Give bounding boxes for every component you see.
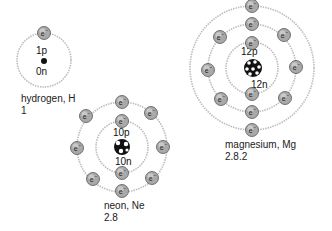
electron-icon [116, 96, 129, 109]
hydrogen-config: 1 [21, 105, 75, 117]
electron-icon [290, 61, 303, 74]
electron-icon [116, 115, 129, 128]
magnesium-name: magnesium, Mg [225, 139, 296, 151]
electron-icon [116, 185, 129, 198]
electron-icon [157, 141, 170, 154]
magnesium-nucleus [244, 59, 262, 77]
electron-icon [145, 107, 158, 120]
electron-icon [87, 173, 100, 186]
electron-icon [246, 106, 259, 119]
electron-icon [146, 172, 159, 185]
hydrogen-protons: 1p [36, 45, 48, 56]
electron-icon [214, 31, 227, 44]
neon-label: neon, Ne 2.8 [104, 200, 145, 224]
electron-icon [246, 124, 259, 137]
electron-icon [246, 88, 259, 101]
neon-name: neon, Ne [104, 200, 145, 212]
hydrogen-name: hydrogen, H [21, 93, 75, 105]
electron-icon [116, 167, 129, 180]
magnesium-atom: 12p 12n [190, 0, 314, 137]
electron-icon [279, 92, 292, 105]
neon-nucleus [114, 139, 130, 155]
neon-atom: 10p 10n [71, 96, 170, 198]
electron-icon [246, 37, 259, 50]
magnesium-label: magnesium, Mg 2.8.2 [225, 139, 296, 163]
neon-protons: 10p [113, 127, 130, 138]
electron-icon [278, 29, 291, 42]
electron-icon [202, 64, 215, 77]
hydrogen-neutrons: 0n [36, 66, 47, 77]
electron-icon [80, 110, 93, 123]
electron-icon [246, 0, 259, 13]
neon-neutrons: 10n [115, 156, 132, 167]
electron-icon [215, 93, 228, 106]
hydrogen-label: hydrogen, H 1 [21, 93, 75, 117]
electron-icon [38, 27, 51, 40]
neon-config: 2.8 [104, 212, 145, 224]
electron-icon [246, 18, 259, 31]
magnesium-config: 2.8.2 [225, 151, 296, 163]
hydrogen-atom: 1p 0n [17, 27, 71, 88]
hydrogen-nucleus [41, 58, 47, 64]
electron-icon [71, 142, 84, 155]
